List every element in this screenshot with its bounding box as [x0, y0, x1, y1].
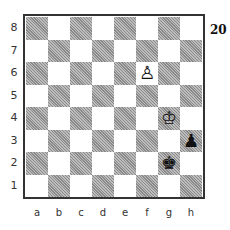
square-h4[interactable]	[180, 107, 202, 130]
file-label: h	[180, 207, 202, 218]
square-c1[interactable]	[70, 175, 92, 198]
square-d8[interactable]	[92, 17, 114, 40]
square-e8[interactable]	[114, 17, 136, 40]
square-a6[interactable]	[26, 62, 48, 85]
square-h2[interactable]	[180, 152, 202, 175]
rank-label: 3	[9, 134, 19, 147]
square-a7[interactable]	[26, 40, 48, 63]
square-f5[interactable]	[136, 85, 158, 108]
square-b8[interactable]	[48, 17, 70, 40]
square-c7[interactable]	[70, 40, 92, 63]
square-h7[interactable]	[180, 40, 202, 63]
square-b1[interactable]	[48, 175, 70, 198]
square-f7[interactable]	[136, 40, 158, 63]
file-label: b	[48, 207, 70, 218]
file-label: c	[70, 207, 92, 218]
square-h3[interactable]: ♟	[180, 130, 202, 153]
white-king-icon[interactable]: ♔	[161, 109, 177, 127]
square-e3[interactable]	[114, 130, 136, 153]
square-h8[interactable]	[180, 17, 202, 40]
square-g7[interactable]	[158, 40, 180, 63]
white-pawn-icon[interactable]: ♙	[139, 64, 155, 82]
square-d3[interactable]	[92, 130, 114, 153]
square-b2[interactable]	[48, 152, 70, 175]
square-h5[interactable]	[180, 85, 202, 108]
file-label: f	[136, 207, 158, 218]
square-c2[interactable]	[70, 152, 92, 175]
square-b4[interactable]	[48, 107, 70, 130]
square-c4[interactable]	[70, 107, 92, 130]
square-f6[interactable]: ♙	[136, 62, 158, 85]
diagram-number: 20	[210, 23, 227, 37]
black-king-icon[interactable]: ♚	[161, 154, 177, 172]
rank-label: 8	[9, 21, 19, 34]
square-f1[interactable]	[136, 175, 158, 198]
square-e1[interactable]	[114, 175, 136, 198]
square-e2[interactable]	[114, 152, 136, 175]
square-b3[interactable]	[48, 130, 70, 153]
square-f8[interactable]	[136, 17, 158, 40]
black-pawn-icon[interactable]: ♟	[183, 132, 199, 150]
square-f4[interactable]	[136, 107, 158, 130]
square-a8[interactable]	[26, 17, 48, 40]
square-g2[interactable]: ♚	[158, 152, 180, 175]
rank-label: 1	[9, 179, 19, 192]
rank-label: 5	[9, 89, 19, 102]
square-h1[interactable]	[180, 175, 202, 198]
square-b7[interactable]	[48, 40, 70, 63]
square-a5[interactable]	[26, 85, 48, 108]
file-label: e	[114, 207, 136, 218]
square-e4[interactable]	[114, 107, 136, 130]
square-c6[interactable]	[70, 62, 92, 85]
square-g3[interactable]	[158, 130, 180, 153]
square-a4[interactable]	[26, 107, 48, 130]
square-d4[interactable]	[92, 107, 114, 130]
square-a3[interactable]	[26, 130, 48, 153]
rank-label: 4	[9, 111, 19, 124]
square-d6[interactable]	[92, 62, 114, 85]
square-e7[interactable]	[114, 40, 136, 63]
square-f2[interactable]	[136, 152, 158, 175]
square-a2[interactable]	[26, 152, 48, 175]
square-g8[interactable]	[158, 17, 180, 40]
square-c3[interactable]	[70, 130, 92, 153]
rank-label: 7	[9, 44, 19, 57]
square-b5[interactable]	[48, 85, 70, 108]
square-g6[interactable]	[158, 62, 180, 85]
file-label: d	[92, 207, 114, 218]
square-c5[interactable]	[70, 85, 92, 108]
square-a1[interactable]	[26, 175, 48, 198]
rank-label: 6	[9, 66, 19, 79]
square-e6[interactable]	[114, 62, 136, 85]
square-d1[interactable]	[92, 175, 114, 198]
square-f3[interactable]	[136, 130, 158, 153]
square-d2[interactable]	[92, 152, 114, 175]
square-g4[interactable]: ♔	[158, 107, 180, 130]
rank-label: 2	[9, 156, 19, 169]
square-h6[interactable]	[180, 62, 202, 85]
square-d5[interactable]	[92, 85, 114, 108]
square-c8[interactable]	[70, 17, 92, 40]
square-b6[interactable]	[48, 62, 70, 85]
square-d7[interactable]	[92, 40, 114, 63]
file-label: a	[26, 207, 48, 218]
file-label: g	[158, 207, 180, 218]
square-g5[interactable]	[158, 85, 180, 108]
square-g1[interactable]	[158, 175, 180, 198]
chess-board: ♙♔♟♚	[26, 17, 202, 197]
square-e5[interactable]	[114, 85, 136, 108]
